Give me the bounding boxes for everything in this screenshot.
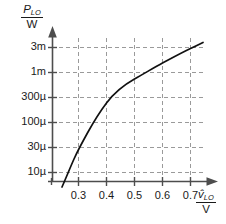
y-tick-label-30u: 30µ <box>2 141 46 152</box>
y-axis-label-fraction: PLO W <box>21 4 43 30</box>
y-tick-label-100u: 100µ <box>2 116 46 127</box>
y-tick-label-10u: 10µ <box>2 166 46 177</box>
vertical-gridlines <box>79 38 191 180</box>
x-tick-label-0-3: 0.3 <box>63 190 94 201</box>
y-tick-label-3m: 3m <box>2 41 46 52</box>
y-axis <box>48 26 57 182</box>
y-axis-label-denominator: W <box>21 18 43 31</box>
x-tick-label-0-5: 0.5 <box>119 190 150 201</box>
x-axis-label: v̂LO V <box>188 189 224 215</box>
y-axis-label-numerator: PLO <box>21 4 43 18</box>
horizontal-gridlines <box>52 48 204 173</box>
x-tick-label-0-6: 0.6 <box>147 190 178 201</box>
data-curve <box>62 43 203 188</box>
chart-figure: 3m 1m 300µ 100µ 30µ 10µ 0.3 0.4 0.5 0.6 … <box>0 0 226 224</box>
y-axis-label: PLO W <box>14 4 50 30</box>
x-axis-label-denominator: V <box>196 203 216 216</box>
y-tick-label-300u: 300µ <box>2 91 46 102</box>
y-tick-label-1m: 1m <box>2 66 46 77</box>
x-axis-label-fraction: v̂LO V <box>196 189 216 215</box>
x-tick-label-0-4: 0.4 <box>91 190 122 201</box>
x-axis-label-numerator: v̂LO <box>196 189 216 203</box>
x-axis <box>48 177 218 186</box>
